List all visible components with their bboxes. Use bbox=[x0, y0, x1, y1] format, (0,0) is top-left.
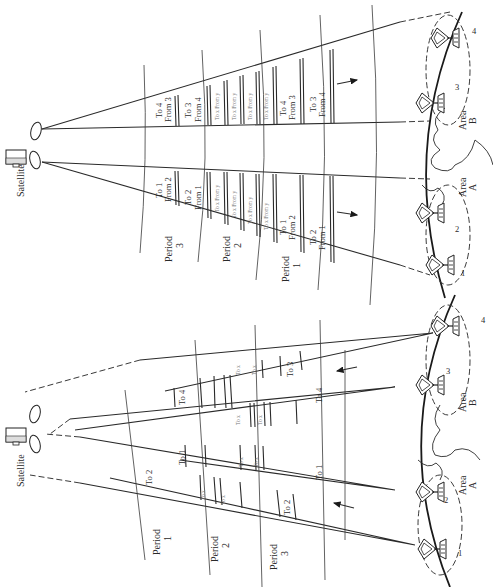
earth-station-icon bbox=[416, 482, 444, 502]
lower-panel: Satellite To 4 To 1 To 2 To 3 bbox=[6, 295, 486, 587]
packet-label-small: To x bbox=[251, 365, 257, 375]
period-label: 3 bbox=[174, 243, 185, 248]
period-label: 1 bbox=[291, 263, 302, 268]
satellite-label: Satellite bbox=[15, 454, 26, 487]
coastline bbox=[432, 405, 480, 460]
packet-label-small: To x bbox=[238, 457, 244, 467]
earth-station-icon bbox=[426, 255, 454, 275]
direction-arrow-icon bbox=[337, 212, 357, 215]
area-label: A bbox=[467, 481, 478, 489]
packet-label: From 2 bbox=[163, 177, 173, 202]
upper-panel: Satellite To 4 From 3 To 3 bbox=[6, 5, 493, 305]
area-label: A bbox=[467, 183, 478, 191]
period-label: 2 bbox=[232, 243, 243, 248]
packet-label: To 3 bbox=[285, 362, 295, 377]
packet-label: From 4 bbox=[193, 96, 203, 122]
direction-arrow-icon bbox=[337, 367, 357, 371]
upper-beam-a-packets: To 1 From 2 To 2 From 1 To x From y To x… bbox=[154, 171, 334, 263]
area-label: B bbox=[467, 117, 478, 124]
packet-label: From 1 bbox=[317, 225, 327, 250]
period-label: 2 bbox=[220, 543, 231, 548]
station-number: 2 bbox=[455, 224, 459, 234]
packet-label: To 3 bbox=[183, 103, 193, 118]
station-number: 1 bbox=[461, 268, 465, 278]
packet-label-small: To x From y bbox=[263, 92, 269, 120]
packet-label: To 1 bbox=[177, 450, 187, 465]
packet-label: To 4 bbox=[177, 389, 187, 405]
direction-arrow-icon bbox=[337, 80, 357, 84]
packet-label-small: To x From y bbox=[263, 202, 269, 230]
packet-label: From 1 bbox=[193, 185, 203, 210]
packet-label-small: To x bbox=[257, 415, 263, 425]
packet-label: To 1 bbox=[314, 465, 324, 480]
packet-label-small: To x bbox=[200, 490, 206, 500]
packet-label: To 2 bbox=[183, 190, 193, 205]
packet-label-small: To x From y bbox=[231, 190, 237, 218]
satellite-dish-icon bbox=[28, 404, 42, 424]
period-label: Period bbox=[163, 236, 174, 262]
packet-label-small: To x bbox=[235, 415, 241, 425]
packet-label-small: To x From y bbox=[214, 184, 220, 212]
earth-station-icon bbox=[416, 93, 444, 113]
satellite-dish-icon bbox=[28, 150, 42, 170]
earth-station-icon bbox=[418, 539, 446, 559]
satellite-label: Satellite bbox=[15, 164, 26, 197]
packet-label: From 4 bbox=[317, 91, 327, 117]
packet-label-small: To x bbox=[235, 365, 241, 375]
station-number: 2 bbox=[444, 495, 448, 505]
period-label: 3 bbox=[279, 551, 290, 556]
tdma-satellite-diagram: Satellite To 4 From 3 To 3 bbox=[0, 0, 493, 587]
packet-label: To 4 bbox=[314, 387, 324, 403]
period-label: Period bbox=[268, 544, 279, 570]
packet-label: To 2 bbox=[144, 470, 154, 485]
packet-label-small: To x From y bbox=[214, 92, 220, 120]
packet-label-small: To x bbox=[253, 457, 259, 467]
period-label: Period bbox=[209, 536, 220, 562]
station-number: 3 bbox=[455, 82, 459, 92]
packet-label-small: To x From y bbox=[247, 196, 253, 224]
satellite-dish-icon bbox=[29, 121, 43, 141]
period-label: Period bbox=[280, 256, 291, 282]
station-number: 4 bbox=[481, 315, 486, 325]
station-number: 3 bbox=[446, 366, 450, 376]
packet-label: From 3 bbox=[163, 97, 173, 122]
packet-label: From 3 bbox=[287, 95, 297, 120]
station-number: 1 bbox=[458, 548, 462, 558]
period-label: Period bbox=[221, 236, 232, 262]
period-label: Period bbox=[151, 529, 162, 555]
area-label: B bbox=[467, 399, 478, 406]
period-label: 1 bbox=[162, 536, 173, 541]
earth-station-icon bbox=[431, 28, 459, 48]
station-number: 4 bbox=[472, 26, 477, 36]
packet-label-small: To x From y bbox=[247, 92, 253, 120]
packet-label-small: To x From y bbox=[231, 92, 237, 120]
satellite-dish-icon bbox=[28, 434, 42, 454]
direction-arrow-icon bbox=[334, 503, 354, 508]
packet-label-small: To x bbox=[220, 495, 226, 505]
packet-label: To 2 bbox=[282, 500, 292, 515]
packet-label: From 2 bbox=[287, 215, 297, 240]
satellite-icon bbox=[6, 428, 26, 445]
